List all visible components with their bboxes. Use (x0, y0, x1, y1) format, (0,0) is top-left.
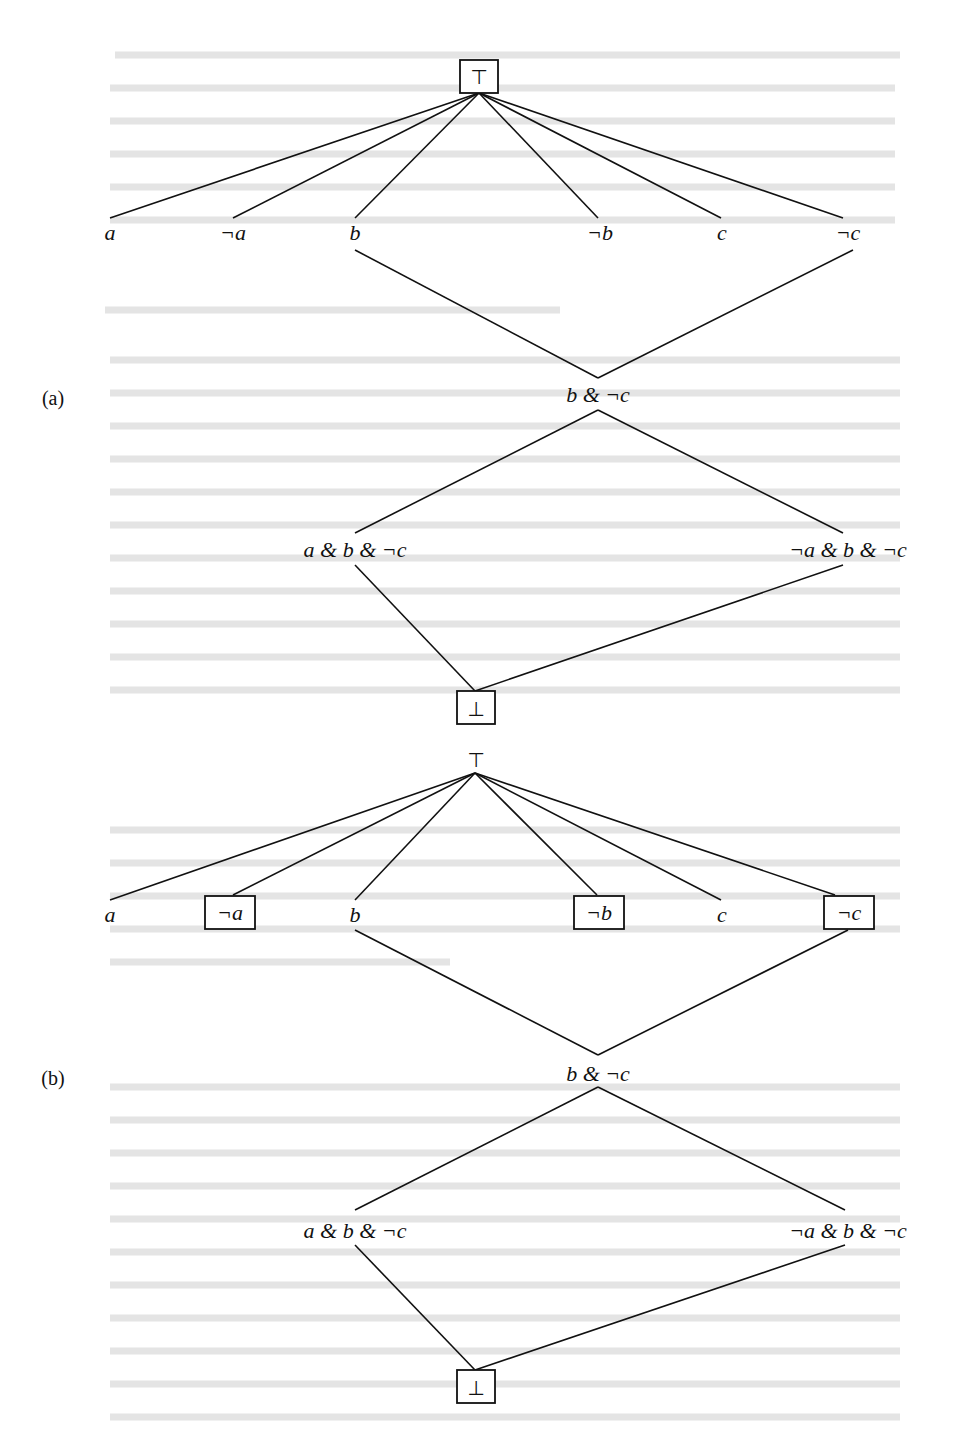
node-a-and-b-and-not-c: a & b & ¬c (304, 1218, 407, 1243)
panel-label-b: (b) (41, 1067, 64, 1090)
top-node: ⊤ (467, 748, 484, 772)
lattice-diagram: ⊤ a ¬a b ¬b c ¬c (a) b & ¬c a & b & ¬c ¬… (0, 0, 968, 1448)
svg-text:⊥: ⊥ (467, 1376, 484, 1400)
leaf-a: a (105, 220, 116, 245)
leaf-not-b: ¬b (586, 900, 612, 925)
leaf-b: b (350, 220, 361, 245)
panel-label-a: (a) (42, 387, 64, 410)
panel-b: ⊤ a ¬a b ¬b c ¬c (b) b & ¬c a & b & ¬c ¬… (41, 748, 907, 1403)
top-node: ⊤ (460, 60, 498, 93)
leaf-c: c (717, 220, 727, 245)
panel-a: ⊤ a ¬a b ¬b c ¬c (a) b & ¬c a & b & ¬c ¬… (42, 60, 907, 724)
leaf-a: a (105, 902, 116, 927)
leaf-not-c: ¬c (836, 220, 861, 245)
leaf-not-a: ¬a (217, 900, 243, 925)
node-not-a-and-b-and-not-c: ¬a & b & ¬c (789, 1218, 907, 1243)
svg-text:⊤: ⊤ (470, 65, 487, 89)
leaf-not-b: ¬b (587, 220, 613, 245)
node-b-and-not-c: b & ¬c (566, 382, 630, 407)
bottom-node: ⊥ (457, 691, 495, 724)
panel-b-edges (110, 773, 848, 1370)
leaf-c: c (717, 902, 727, 927)
leaf-not-c: ¬c (837, 900, 862, 925)
node-a-and-b-and-not-c: a & b & ¬c (304, 537, 407, 562)
panel-a-edges (110, 93, 853, 691)
node-not-a-and-b-and-not-c: ¬a & b & ¬c (789, 537, 907, 562)
leaf-not-a: ¬a (220, 220, 246, 245)
node-b-and-not-c: b & ¬c (566, 1061, 630, 1086)
leaf-b: b (350, 902, 361, 927)
bottom-node: ⊥ (457, 1370, 495, 1403)
svg-text:⊥: ⊥ (467, 697, 484, 721)
